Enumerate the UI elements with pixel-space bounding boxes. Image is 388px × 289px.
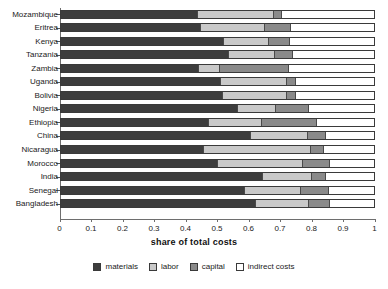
bar-segment-capital xyxy=(303,160,330,167)
bar-row xyxy=(60,118,375,127)
bar-segment-labor xyxy=(200,24,265,31)
bar-segment-materials xyxy=(61,38,224,45)
legend-label: indirect costs xyxy=(248,262,295,271)
y-axis-label-bangladesh: Bangladesh xyxy=(16,199,58,208)
y-axis-label-mozambique: Mozambique xyxy=(12,10,58,19)
x-tick-mark xyxy=(375,219,376,222)
x-tick-mark xyxy=(343,219,344,222)
bar-segment-materials xyxy=(61,200,255,207)
bar-segment-indirect xyxy=(296,78,373,85)
bar-row xyxy=(60,10,375,19)
bar-row xyxy=(60,23,375,32)
x-tick-label: 0.7 xyxy=(274,224,285,234)
legend-item-materials: materials xyxy=(93,262,137,271)
y-axis-label-uganda: Uganda xyxy=(30,77,58,86)
bar-row xyxy=(60,104,375,113)
bar-segment-labor xyxy=(198,65,220,72)
x-tick-label: 0.6 xyxy=(243,224,254,234)
bar-segment-labor xyxy=(223,38,268,45)
bar-segment-materials xyxy=(61,24,200,31)
bar-segment-labor xyxy=(222,92,288,99)
bar-segment-materials xyxy=(61,132,250,139)
bar-segment-capital xyxy=(265,24,291,31)
bar-segment-materials xyxy=(61,160,218,167)
bar-segment-materials xyxy=(61,146,203,153)
x-tick-mark xyxy=(280,219,281,222)
x-tick-label: 0.8 xyxy=(306,224,317,234)
bar-segment-labor xyxy=(237,105,276,112)
x-tick-mark xyxy=(154,219,155,222)
bar-row xyxy=(60,199,375,208)
x-tick-label: 1 xyxy=(372,224,376,234)
bar-segment-indirect xyxy=(330,160,374,167)
bar-row xyxy=(60,159,375,168)
bar-segment-indirect xyxy=(324,146,373,153)
x-tick-mark xyxy=(312,219,313,222)
x-tick-mark xyxy=(217,219,218,222)
y-axis-label-nicaragua: Nicaragua xyxy=(22,145,58,154)
bar-segment-capital xyxy=(269,38,290,45)
bar-segment-capital xyxy=(275,51,293,58)
bar-row xyxy=(60,64,375,73)
x-tick-mark xyxy=(186,219,187,222)
bar-segment-labor xyxy=(255,200,310,207)
bar-segment-indirect xyxy=(296,92,374,99)
bar-segment-labor xyxy=(220,78,287,85)
bar-segment-materials xyxy=(61,187,244,194)
bar-row xyxy=(60,145,375,154)
legend-label: capital xyxy=(202,262,225,271)
y-axis-label-kenya: Kenya xyxy=(35,37,58,46)
bar-row xyxy=(60,131,375,140)
x-tick-mark xyxy=(249,219,250,222)
bar-segment-materials xyxy=(61,78,221,85)
bar-segment-materials xyxy=(61,119,208,126)
bar-segment-indirect xyxy=(317,119,373,126)
y-axis-label-senegal: Senegal xyxy=(29,186,58,195)
stacked-bar-chart: MozambiqueEritreaKenyaTanzaniaZambiaUgan… xyxy=(0,0,388,289)
bar-segment-indirect xyxy=(326,132,374,139)
y-axis-label-eritrea: Eritrea xyxy=(34,23,58,32)
bar-segment-capital xyxy=(301,187,329,194)
x-tick-mark xyxy=(60,219,61,222)
legend-label: labor xyxy=(161,262,179,271)
bar-row xyxy=(60,77,375,86)
bar-segment-capital xyxy=(276,105,309,112)
bar-segment-indirect xyxy=(290,38,374,45)
bar-segment-capital xyxy=(274,11,282,18)
bar-segment-materials xyxy=(61,105,238,112)
y-axis-label-tanzania: Tanzania xyxy=(26,50,58,59)
legend-swatch-capital xyxy=(190,263,198,271)
y-axis-label-china: China xyxy=(37,131,58,140)
y-axis-label-india: India xyxy=(41,172,58,181)
bar-segment-indirect xyxy=(330,200,373,207)
bar-segment-labor xyxy=(208,119,263,126)
x-tick-label: 0.1 xyxy=(85,224,96,234)
bar-segment-labor xyxy=(217,160,303,167)
bar-segment-materials xyxy=(61,65,199,72)
bar-segment-capital xyxy=(311,146,324,153)
legend-label: materials xyxy=(105,262,137,271)
bar-row xyxy=(60,50,375,59)
x-tick-label: 0.3 xyxy=(148,224,159,234)
x-tick-label: 0.4 xyxy=(180,224,191,234)
bar-segment-indirect xyxy=(309,105,373,112)
bar-row xyxy=(60,91,375,100)
bar-segment-indirect xyxy=(329,187,373,194)
bar-segment-labor xyxy=(197,11,275,18)
legend-item-capital: capital xyxy=(190,262,225,271)
bar-segment-indirect xyxy=(293,51,374,58)
bar-segment-capital xyxy=(287,78,296,85)
bar-segment-capital xyxy=(220,65,289,72)
x-axis-title: share of total costs xyxy=(0,237,388,247)
legend-item-labor: labor xyxy=(149,262,179,271)
bar-segment-materials xyxy=(61,92,222,99)
plot-area xyxy=(60,8,375,219)
legend-swatch-labor xyxy=(149,263,157,271)
bar-segment-labor xyxy=(228,51,275,58)
bar-segment-labor xyxy=(244,187,302,194)
bar-segment-materials xyxy=(61,173,263,180)
bar-segment-materials xyxy=(61,11,197,18)
bar-segment-labor xyxy=(203,146,311,153)
bar-segment-materials xyxy=(61,51,228,58)
bar-row xyxy=(60,37,375,46)
